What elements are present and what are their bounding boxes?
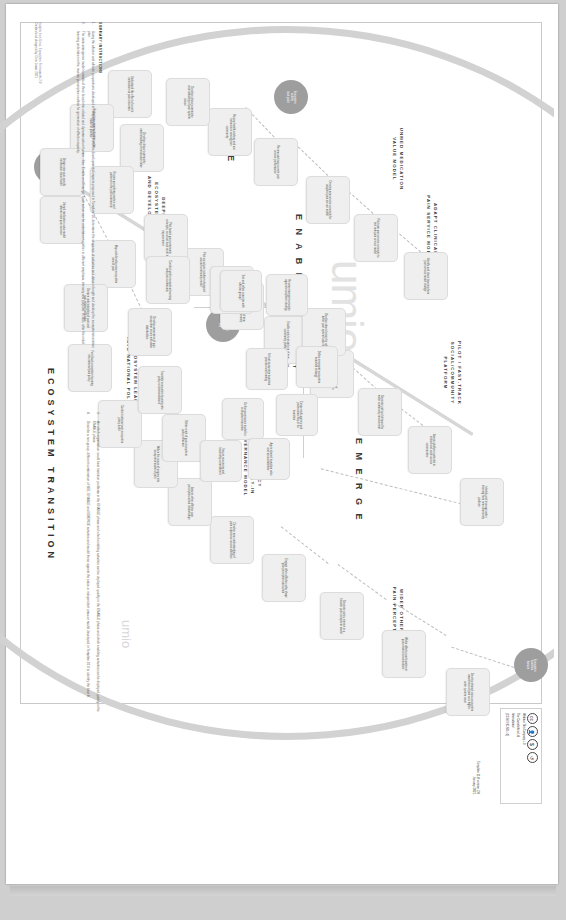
credits-line-1: Insights from Umio, Ecosystem Frameworks… bbox=[38, 22, 42, 83]
node-n5[interactable]: Develop new understanding of pain experi… bbox=[210, 516, 254, 564]
node-n8[interactable]: Identify and leverage wider learning fro… bbox=[460, 478, 504, 526]
template-version: Template 11.0 version 2.0 January 2021 bbox=[472, 708, 480, 794]
node-n19[interactable]: Review and map current pain service perf… bbox=[254, 138, 298, 186]
instruction-number-1: 1. bbox=[86, 22, 95, 28]
stream-label-pilot: PILOT / FAST-TRACK SOCIAL/COMMUNITY PLAT… bbox=[442, 318, 462, 428]
instruction-item-1: 1. Using the affector and affector propo… bbox=[86, 22, 95, 352]
by-icon: 👤 bbox=[527, 726, 538, 737]
poster-canvas: ECOSYSTEM TRANSITION S E E E N A B L E E… bbox=[10, 8, 554, 880]
poster-sheet: ECOSYSTEM TRANSITION S E E E N A B L E E… bbox=[6, 4, 558, 884]
node-n15[interactable]: Pilot based pain community concepts, as … bbox=[144, 214, 188, 262]
license-line-3: International bbox=[510, 713, 514, 799]
license-line-1: Webinar Thin Company 4.0 bbox=[521, 713, 525, 799]
node-n21[interactable]: Develop clinical community understanding… bbox=[166, 78, 210, 126]
license-line-2: The Carnelletters Ltd bbox=[516, 713, 520, 799]
node-n40[interactable]: Define emergent ecosystem transition str… bbox=[296, 346, 338, 388]
node-n31[interactable]: Develop awareness of pain ecosystem issu… bbox=[128, 308, 172, 356]
instruction-text-2: The semi-emergence model consists of thr… bbox=[75, 31, 84, 352]
node-n10[interactable]: Generate pull and demand for wider commu… bbox=[358, 388, 402, 436]
sheet-shadow bbox=[10, 886, 556, 896]
node-n2[interactable]: Widen affector participation in pain-rel… bbox=[382, 630, 426, 678]
node-n30[interactable]: Conduct wider ecosystem learning with pa… bbox=[146, 256, 190, 304]
node-n43[interactable]: Define governance model for ecosystem tr… bbox=[222, 398, 264, 440]
node-n38[interactable]: Review emergent concepts against ecosyst… bbox=[266, 274, 308, 316]
node-n3[interactable]: Generate policy interest in a broader pa… bbox=[320, 592, 364, 640]
node-n20[interactable]: Review health-seeking and use behaviours… bbox=[208, 108, 252, 156]
hub-ecosystem-activity-start[interactable]: Ecosystem activity start point bbox=[274, 80, 308, 114]
node-n4[interactable]: Engage other affectors who shape pain pe… bbox=[262, 554, 306, 602]
node-n45[interactable]: Secure resourcing and leadership commitm… bbox=[200, 440, 242, 482]
license-box: cc 👤 $ ↺ Webinar Thin Company 4.0 The Ca… bbox=[501, 708, 543, 804]
instruction-number-2: 2. bbox=[75, 22, 84, 28]
node-n1[interactable]: Develop shared cross-ecosystem awareness… bbox=[446, 668, 490, 716]
node-n9[interactable]: Assess platform potential to embed and s… bbox=[408, 426, 452, 474]
sa-icon: ↺ bbox=[527, 752, 538, 763]
instruction-item-3: 3. An which organisation would best tran… bbox=[91, 412, 100, 722]
node-n42[interactable]: Create multi-agency and professional buy… bbox=[276, 394, 318, 436]
node-n36[interactable]: Translate ecosystem learning into policy… bbox=[138, 366, 182, 414]
node-n24[interactable]: Understand the effect of current medicat… bbox=[108, 70, 152, 118]
node-n41[interactable]: Set out ecosystem transition priorities … bbox=[246, 348, 288, 390]
screenshot-root: ECOSYSTEM TRANSITION S E E E N A B L E E… bbox=[0, 0, 566, 920]
node-n44[interactable]: Agree shared transition roles and accoun… bbox=[248, 438, 290, 480]
credits-line-2: Created and designed by Chris Lawer 2021 bbox=[33, 22, 37, 83]
brand-wordmark-small: umio bbox=[119, 620, 134, 648]
summary-instructions: SUMMARY INSTRUCTIONS 1. Using the affect… bbox=[75, 22, 102, 352]
summary-instructions-continued: 3. An which organisation would best tran… bbox=[85, 412, 102, 722]
instruction-text-4: Describe a non-group, different combinat… bbox=[85, 421, 90, 698]
instruction-item-4: 4. Describe a non-group, different combi… bbox=[85, 412, 90, 722]
stream-label-unmed: UNMED MEDICATION VALUE MODEL bbox=[390, 104, 404, 214]
poster-rotated-canvas: ECOSYSTEM TRANSITION S E E E N A B L E E… bbox=[10, 8, 554, 880]
nc-icon: $ bbox=[527, 739, 538, 750]
license-line-4: (CC BY-NC-ND 4.0) bbox=[505, 713, 509, 799]
instruction-number-4: 4. bbox=[85, 412, 90, 418]
phase-emerge: E M E R G E bbox=[354, 438, 364, 523]
instruction-number-3: 3. bbox=[91, 412, 100, 418]
instruction-item-2: 2. The semi-emergence model consists of … bbox=[75, 22, 84, 352]
credits: Insights from Umio, Ecosystem Frameworks… bbox=[33, 22, 42, 83]
node-n39[interactable]: Test and refine concepts with affector g… bbox=[220, 270, 262, 312]
node-n16[interactable]: Identify and share learning from pain se… bbox=[404, 252, 448, 300]
node-n22[interactable]: Develop clinical community understanding… bbox=[120, 124, 164, 172]
instruction-text-3: An which organisation would best transit… bbox=[91, 421, 100, 722]
node-n17[interactable]: Pilot new pain service concepts to test … bbox=[354, 214, 398, 262]
summary-instructions-heading: SUMMARY INSTRUCTIONS bbox=[97, 22, 102, 352]
instruction-text-1: Using the affector and affector proposit… bbox=[86, 31, 95, 352]
license-icons: cc 👤 $ ↺ bbox=[527, 713, 538, 799]
hub-ecosystem-transition-horizon[interactable]: Ecosystem transition horizon bbox=[514, 648, 548, 682]
axis-label: ECOSYSTEM TRANSITION bbox=[46, 368, 56, 562]
node-n35[interactable]: Conduct national pain ecosystem policy a… bbox=[98, 400, 142, 448]
cc-icon: cc bbox=[527, 713, 538, 724]
node-n18[interactable]: Develop new service concepts for adapted… bbox=[306, 176, 350, 224]
